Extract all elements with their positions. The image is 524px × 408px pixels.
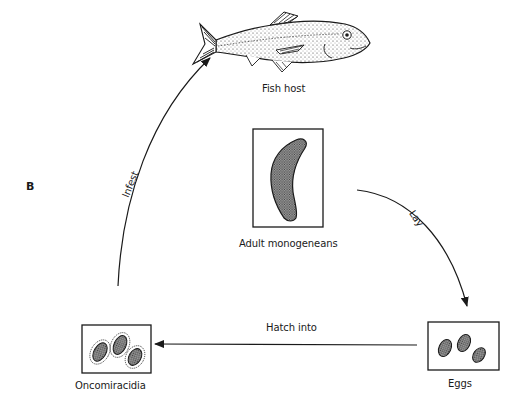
lay-arrow (357, 190, 467, 306)
eggs-illustration (428, 322, 499, 370)
hatch-into-label: Hatch into (266, 322, 317, 333)
oncomiracidia-label: Oncomiracidia (75, 380, 146, 391)
oncomiracidia-illustration (82, 325, 151, 373)
fish-host-label: Fish host (262, 83, 305, 94)
adult-monogeneans-label: Adult monogeneans (239, 238, 338, 249)
fish-host-illustration (193, 12, 370, 72)
eggs-label: Eggs (448, 378, 472, 389)
life-cycle-diagram (0, 0, 524, 408)
hatch-arrow (155, 344, 417, 345)
adult-monogeneans-illustration (253, 129, 323, 227)
panel-letter: B (26, 180, 34, 193)
